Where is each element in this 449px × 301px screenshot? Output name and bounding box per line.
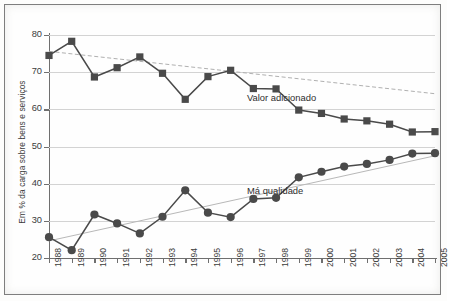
data-point: [91, 73, 98, 80]
data-point: [409, 128, 416, 135]
x-tick: [49, 258, 50, 263]
x-tick: [185, 258, 186, 263]
data-point: [45, 233, 53, 241]
data-point: [363, 160, 371, 168]
data-point: [317, 168, 325, 176]
data-point: [431, 149, 439, 157]
y-tick-label: 70: [18, 66, 42, 76]
x-tick: [321, 258, 322, 263]
data-point: [340, 162, 348, 170]
x-tick: [94, 258, 95, 263]
x-tick: [299, 258, 300, 263]
data-point: [341, 115, 348, 122]
y-tick-label: 60: [18, 103, 42, 113]
series-line: [49, 153, 435, 250]
data-point: [431, 128, 438, 135]
data-point: [114, 64, 121, 71]
data-point: [181, 186, 189, 194]
data-point: [227, 67, 234, 74]
y-tick-label: 30: [18, 215, 42, 225]
trendline: [49, 156, 435, 241]
x-tick: [367, 258, 368, 263]
annotation-valor-adicionado: Valor adicionado: [247, 92, 316, 103]
x-tick: [253, 258, 254, 263]
data-point: [227, 213, 235, 221]
chart-frame: Em % da carga sobre bens e serviços 2030…: [4, 4, 441, 295]
y-tick-label: 20: [18, 252, 42, 262]
data-point: [385, 156, 393, 164]
x-tick: [117, 258, 118, 263]
x-tick: [412, 258, 413, 263]
y-tick-label: 80: [18, 29, 42, 39]
x-tick: [231, 258, 232, 263]
data-point: [204, 209, 212, 217]
x-tick: [390, 258, 391, 263]
data-point: [318, 110, 325, 117]
x-tick: [72, 258, 73, 263]
data-point: [68, 38, 75, 45]
data-point: [159, 70, 166, 77]
x-tick: [208, 258, 209, 263]
x-tick-label: 2005: [439, 248, 449, 267]
data-point: [363, 117, 370, 124]
data-point: [45, 52, 52, 59]
data-point: [90, 210, 98, 218]
plot-area: 20304050607080 1988198919901991199219931…: [49, 35, 435, 258]
data-point: [182, 96, 189, 103]
data-point: [408, 149, 416, 157]
data-point: [136, 53, 143, 60]
series-line: [49, 41, 435, 132]
data-point: [249, 195, 257, 203]
annotation-ma-qualidade: Má qualidade: [247, 185, 303, 196]
y-tick-label: 50: [18, 141, 42, 151]
data-point: [113, 219, 121, 227]
x-tick: [435, 258, 436, 263]
data-point: [295, 173, 303, 181]
data-point: [386, 121, 393, 128]
data-point: [204, 73, 211, 80]
x-tick: [344, 258, 345, 263]
data-point: [68, 246, 76, 254]
x-tick: [163, 258, 164, 263]
data-point: [158, 213, 166, 221]
x-tick: [140, 258, 141, 263]
x-tick: [276, 258, 277, 263]
data-point: [136, 229, 144, 237]
data-point: [295, 106, 302, 113]
series-lines: [49, 35, 435, 258]
y-tick-label: 40: [18, 178, 42, 188]
